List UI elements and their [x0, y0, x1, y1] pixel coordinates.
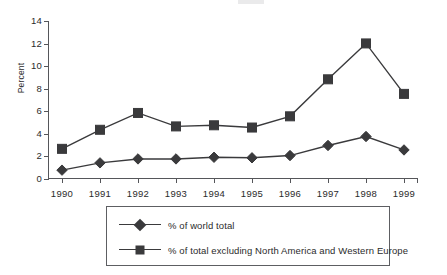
x-axis-label-1999: 1999	[393, 187, 415, 200]
square-marker-icon	[400, 89, 409, 98]
diamond-marker-icon	[95, 158, 105, 168]
x-axis-label-1996: 1996	[279, 187, 301, 200]
legend-label-world-total: % of world total	[168, 220, 235, 231]
y-axis-tick-label: 12	[31, 37, 42, 50]
square-marker-icon	[248, 123, 257, 132]
square-marker-icon	[58, 144, 67, 153]
diamond-marker-icon	[361, 131, 371, 141]
legend-item-world-total: % of world total	[119, 215, 235, 235]
legend-label-excluding-na-we: % of total excluding North America and W…	[168, 245, 408, 256]
legend-key-diamond	[119, 218, 161, 232]
square-marker-icon	[134, 108, 143, 117]
legend-key-square	[119, 243, 161, 257]
diamond-marker-icon	[323, 140, 333, 150]
x-axis-label-1997: 1997	[317, 187, 339, 200]
x-axis-label-1993: 1993	[165, 187, 187, 200]
y-axis-tick-label: 14	[31, 14, 42, 27]
line-chart-figure: Percent 0 2 4 6 8 10 12	[0, 0, 447, 275]
y-axis-tick-label: 0	[37, 172, 42, 185]
plot-area: 0 2 4 6 8 10 12 14	[48, 21, 418, 178]
legend-item-excluding-na-we: % of total excluding North America and W…	[119, 240, 408, 260]
scan-artifact	[238, 0, 264, 4]
y-axis-tick-label: 8	[37, 82, 42, 95]
x-axis-label-1998: 1998	[355, 187, 377, 200]
diamond-marker-icon	[399, 145, 409, 155]
series-line-0	[62, 137, 404, 171]
square-marker-icon	[362, 39, 371, 48]
y-axis-title: Percent	[16, 63, 26, 94]
y-axis-tick-label: 4	[37, 127, 42, 140]
x-axis-label-1995: 1995	[241, 187, 263, 200]
diamond-marker-icon	[134, 219, 147, 232]
data-series-layer	[48, 21, 418, 179]
square-marker-icon	[136, 246, 145, 255]
diamond-marker-icon	[171, 154, 181, 164]
x-axis-label-1992: 1992	[127, 187, 149, 200]
square-marker-icon	[286, 112, 295, 121]
square-marker-icon	[324, 75, 333, 84]
x-axis-label-1990: 1990	[51, 187, 73, 200]
y-axis-tick-label: 6	[37, 104, 42, 117]
y-axis-tick-label: 10	[31, 59, 42, 72]
diamond-marker-icon	[57, 165, 67, 175]
diamond-marker-icon	[209, 152, 219, 162]
y-axis-tick-label: 2	[37, 149, 42, 162]
diamond-marker-icon	[247, 153, 257, 163]
diamond-marker-icon	[285, 150, 295, 160]
diamond-marker-icon	[133, 154, 143, 164]
x-axis-label-1994: 1994	[203, 187, 225, 200]
square-marker-icon	[96, 125, 105, 134]
square-marker-icon	[210, 121, 219, 130]
series-line-1	[62, 43, 404, 148]
x-axis-label-1991: 1991	[89, 187, 111, 200]
square-marker-icon	[172, 122, 181, 131]
chart-legend: % of world total % of total excluding No…	[106, 206, 390, 266]
